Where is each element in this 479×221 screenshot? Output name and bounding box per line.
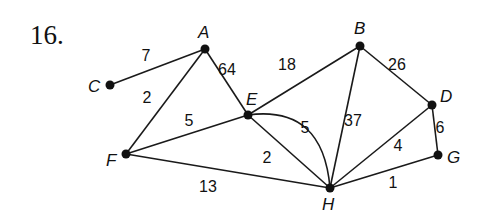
node-label-D: D xyxy=(440,87,452,106)
weighted-graph-diagram: 16. 726418263764152513 ABCDEFGH xyxy=(0,0,479,221)
edge-weight-B-D: 26 xyxy=(388,56,406,73)
node-A xyxy=(201,45,210,54)
edge-weight-E-B: 18 xyxy=(278,56,296,73)
problem-number: 16. xyxy=(30,20,64,50)
node-D xyxy=(428,101,437,110)
edge-weight-F-H: 13 xyxy=(199,178,217,195)
node-label-C: C xyxy=(88,77,101,96)
node-label-G: G xyxy=(447,148,460,167)
edge-weight-C-A: 7 xyxy=(142,47,151,64)
node-B xyxy=(356,42,365,51)
edge-weight-D-G: 6 xyxy=(436,119,445,136)
edge-B-D xyxy=(360,46,432,105)
node-label-F: F xyxy=(106,151,118,170)
edge-F-H xyxy=(126,154,330,188)
node-label-H: H xyxy=(322,195,335,214)
edge-E-B xyxy=(248,46,360,115)
edge-weight-F-E: 5 xyxy=(185,112,194,129)
edge-weight-E-H: 5 xyxy=(301,119,310,136)
node-E xyxy=(244,111,253,120)
edge-G-H xyxy=(330,155,438,188)
edge-weight-D-H: 4 xyxy=(394,137,403,154)
edge-weight-B-H: 37 xyxy=(344,112,362,129)
node-C xyxy=(106,81,115,90)
node-G xyxy=(434,151,443,160)
edge-weight-G-H: 1 xyxy=(389,174,398,191)
node-F xyxy=(122,150,131,159)
edge-weight-A-F: 2 xyxy=(143,89,152,106)
node-H xyxy=(326,184,335,193)
edge-A-E xyxy=(205,49,248,115)
node-label-A: A xyxy=(197,23,209,42)
node-label-B: B xyxy=(354,19,365,38)
edge-weights-layer: 726418263764152513 xyxy=(142,47,445,195)
edge-weight-E-H: 2 xyxy=(263,149,272,166)
edge-weight-A-E: 64 xyxy=(218,61,236,78)
node-label-E: E xyxy=(246,90,258,109)
